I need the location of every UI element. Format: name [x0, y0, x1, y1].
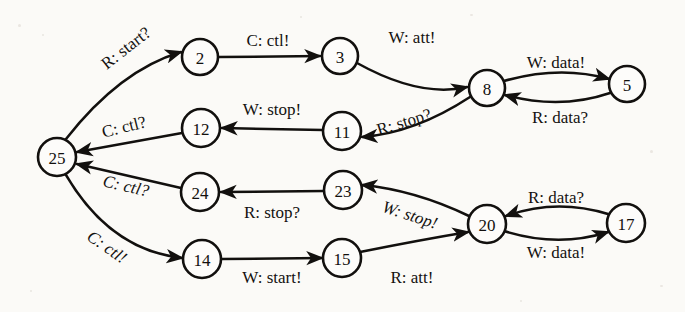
edge-label-w-att-bang: W: att!	[388, 28, 435, 47]
state-node-12[interactable]: 12	[182, 109, 220, 147]
paper-speck	[520, 300, 522, 302]
state-label: 2	[196, 49, 205, 68]
edge-n11-n12	[222, 128, 323, 130]
edge-label-c-ctl-bang-top: C: ctl!	[247, 31, 290, 50]
state-label: 3	[336, 48, 345, 67]
state-label: 8	[483, 80, 492, 99]
state-label: 5	[623, 76, 632, 95]
state-node-5[interactable]: 5	[609, 66, 645, 102]
edge-label-c-ctl-q-top: C: ctl?	[100, 112, 148, 141]
paper-speck	[42, 34, 44, 36]
edge-n20-n17	[504, 231, 608, 240]
paper-speck	[470, 14, 473, 16]
state-node-11[interactable]: 11	[323, 112, 361, 150]
state-node-23[interactable]: 23	[324, 171, 362, 209]
edge-n14-n15	[221, 258, 322, 259]
edge-n15-n20	[360, 232, 468, 252]
edge-label-r-stop-q-bottom: R: stop?	[244, 203, 300, 222]
edge-n5-n8	[505, 93, 610, 102]
state-node-25[interactable]: 25	[38, 138, 76, 176]
state-node-8[interactable]: 8	[469, 70, 505, 106]
edge-label-w-data-bang-bottom: W: data!	[527, 243, 585, 262]
edge-label-w-stop-bang-bottom: W: stop!	[380, 197, 440, 233]
edge-n2-n3	[218, 56, 320, 57]
edge-label-w-stop-bang-top: W: stop!	[243, 100, 301, 119]
edge-label-c-ctl-q-bottom: C: ctl?	[101, 171, 151, 200]
edge-label-w-data-bang-top: W: data!	[527, 53, 585, 72]
edge-n3-n8	[357, 63, 467, 90]
state-node-17[interactable]: 17	[607, 204, 645, 242]
state-label: 14	[194, 251, 212, 270]
edge-label-c-ctl-bang-bottom: C: ctl!	[84, 227, 131, 268]
paper-speck	[18, 24, 21, 27]
edge-label-r-stop-q-top: R: stop?	[374, 105, 433, 140]
edge-label-w-start-bang: W: start!	[242, 268, 301, 287]
edge-n17-n20	[506, 206, 608, 216]
edge-n12-n25	[77, 133, 182, 152]
edge-layer	[66, 52, 610, 259]
state-label: 17	[618, 215, 636, 234]
state-node-14[interactable]: 14	[183, 240, 221, 278]
state-label: 20	[479, 216, 496, 235]
edge-n8-n5	[504, 72, 609, 81]
state-diagram-canvas: R: start? C: ctl! W: att! W: data! R: da…	[0, 0, 685, 312]
state-label: 12	[193, 120, 210, 139]
state-label: 11	[334, 123, 350, 142]
paper-speck	[650, 150, 653, 153]
state-label: 24	[192, 184, 210, 203]
state-node-3[interactable]: 3	[322, 38, 358, 74]
state-node-15[interactable]: 15	[323, 239, 361, 277]
edge-label-r-data-q-bottom: R: data?	[528, 188, 584, 207]
state-diagram-svg: R: start? C: ctl! W: att! W: data! R: da…	[0, 0, 685, 312]
edge-label-r-data-q-top: R: data?	[532, 108, 588, 127]
paper-speck	[30, 290, 32, 292]
state-node-20[interactable]: 20	[468, 205, 506, 243]
paper-speck	[300, 16, 302, 18]
state-node-24[interactable]: 24	[181, 173, 219, 211]
edge-n23-n24	[221, 191, 324, 192]
state-node-2[interactable]: 2	[182, 39, 218, 75]
paper-speck	[660, 285, 663, 287]
edge-label-r-att-bang: R: att!	[391, 268, 434, 287]
state-label: 15	[334, 250, 351, 269]
state-label: 25	[49, 149, 66, 168]
state-label: 23	[335, 182, 352, 201]
